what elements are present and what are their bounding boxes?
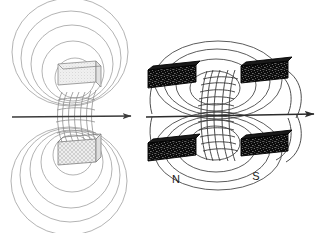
south-pole-label: S: [252, 170, 260, 182]
lower-pole-block-face: [58, 139, 96, 165]
upper-pole-block-side: [96, 61, 101, 87]
upper-pole-block-face: [58, 61, 96, 85]
diagram-canvas: N S: [0, 0, 329, 233]
lower-pole-block-side: [96, 134, 101, 162]
left-axis-arrow: [12, 116, 131, 117]
magnetic-field-diagram: N S: [0, 0, 329, 233]
north-pole-label: N: [172, 173, 180, 185]
